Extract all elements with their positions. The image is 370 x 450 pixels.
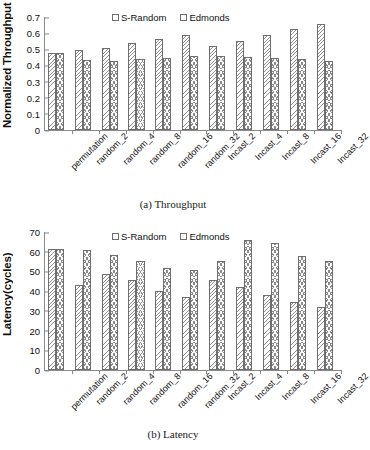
bar-edmonds bbox=[136, 59, 144, 130]
bar-s-random bbox=[317, 24, 325, 130]
bar-s-random bbox=[290, 302, 298, 370]
bar-edmonds bbox=[163, 268, 171, 370]
bar-edmonds bbox=[56, 249, 64, 370]
bar-edmonds bbox=[325, 261, 333, 370]
plot-area-throughput: 00.10.20.30.40.50.60.7 bbox=[44, 17, 341, 131]
y-axis-tick-label: 60 bbox=[29, 246, 45, 257]
y-axis-tick-label: 0.1 bbox=[27, 108, 45, 119]
x-axis-tick-label: Incast_8 bbox=[280, 371, 311, 402]
bar-edmonds bbox=[217, 261, 225, 370]
y-axis-tick-label: 40 bbox=[29, 286, 45, 297]
bar-edmonds bbox=[163, 58, 171, 130]
bar-s-random bbox=[263, 295, 271, 370]
bar-s-random bbox=[236, 287, 244, 370]
bar-edmonds bbox=[56, 53, 64, 130]
y-axis-tick-label: 50 bbox=[29, 266, 45, 277]
y-axis-tick-label: 20 bbox=[29, 325, 45, 336]
legend-swatch-edmonds-icon bbox=[180, 233, 187, 240]
bar-edmonds bbox=[244, 57, 252, 130]
x-axis-tick-mark bbox=[341, 130, 342, 134]
y-axis-tick-label: 0.3 bbox=[27, 76, 45, 87]
bar-s-random bbox=[155, 291, 163, 370]
y-axis-tick-label: 0.4 bbox=[27, 60, 45, 71]
caption-throughput: (a) Throughput bbox=[0, 198, 346, 210]
bar-s-random bbox=[209, 46, 217, 130]
x-axis-tick-label: Incast_8 bbox=[280, 131, 311, 162]
legend-item-edmonds-latency: Edmonds bbox=[180, 231, 229, 242]
bar-s-random bbox=[209, 280, 217, 370]
legend-label-s-random: S-Random bbox=[121, 231, 166, 242]
y-axis-tick-label: 0.7 bbox=[27, 12, 45, 23]
bar-s-random bbox=[236, 41, 244, 130]
bar-edmonds bbox=[271, 58, 279, 130]
bar-edmonds bbox=[298, 256, 306, 370]
bar-edmonds bbox=[110, 255, 118, 370]
bar-s-random bbox=[102, 48, 110, 130]
legend-label-edmonds: Edmonds bbox=[189, 231, 229, 242]
x-axis-labels-throughput: permutationrandom_2random_4random_8rando… bbox=[44, 131, 340, 193]
x-axis-tick-label: Incast_4 bbox=[253, 371, 284, 402]
y-axis-tick-label: 30 bbox=[29, 305, 45, 316]
plot-area-latency: 010203040506070 bbox=[44, 232, 341, 371]
caption-latency: (b) Latency bbox=[0, 428, 346, 440]
bar-s-random bbox=[75, 50, 83, 130]
bar-s-random bbox=[102, 274, 110, 370]
bar-edmonds bbox=[110, 61, 118, 130]
bar-s-random bbox=[290, 29, 298, 130]
legend-item-s-random-latency: S-Random bbox=[112, 231, 166, 242]
y-axis-label-latency: Latency(cycles) bbox=[1, 234, 13, 354]
y-axis-tick-label: 0.2 bbox=[27, 92, 45, 103]
y-axis-tick-label: 0.5 bbox=[27, 44, 45, 55]
bar-s-random bbox=[155, 39, 163, 130]
bar-edmonds bbox=[190, 270, 198, 370]
bar-s-random bbox=[75, 285, 83, 370]
bar-s-random bbox=[182, 35, 190, 130]
bar-edmonds bbox=[190, 56, 198, 130]
bar-edmonds bbox=[83, 60, 91, 130]
page-footer-smudge bbox=[0, 445, 346, 450]
bar-s-random bbox=[48, 249, 56, 370]
bar-s-random bbox=[128, 43, 136, 130]
bar-edmonds bbox=[136, 261, 144, 370]
bar-edmonds bbox=[217, 56, 225, 130]
y-axis-label-throughput: Normalized Throughput bbox=[1, 6, 13, 128]
bar-edmonds bbox=[271, 243, 279, 370]
chart-panel-latency: Latency(cycles) 010203040506070 permutat… bbox=[0, 218, 346, 450]
x-axis-labels-latency: permutationrandom_2random_4random_8rando… bbox=[44, 371, 340, 433]
y-axis-tick-label: 70 bbox=[29, 227, 45, 238]
bar-s-random bbox=[48, 53, 56, 130]
bar-s-random bbox=[263, 35, 271, 130]
bar-s-random bbox=[182, 297, 190, 370]
bar-edmonds bbox=[83, 250, 91, 370]
bar-s-random bbox=[128, 280, 136, 370]
x-axis-tick-mark bbox=[341, 370, 342, 374]
bar-edmonds bbox=[325, 61, 333, 130]
y-axis-tick-label: 0.6 bbox=[27, 28, 45, 39]
bar-s-random bbox=[317, 307, 325, 370]
y-axis-tick-label: 10 bbox=[29, 345, 45, 356]
legend-swatch-s-random-icon bbox=[112, 233, 119, 240]
x-axis-tick-label: Incast_4 bbox=[253, 131, 284, 162]
legend-latency: S-Random Edmonds bbox=[112, 231, 230, 242]
bar-edmonds bbox=[298, 59, 306, 130]
bar-edmonds bbox=[244, 240, 252, 370]
chart-panel-throughput: Normalized Throughput S-Random Edmonds 0… bbox=[0, 0, 346, 215]
